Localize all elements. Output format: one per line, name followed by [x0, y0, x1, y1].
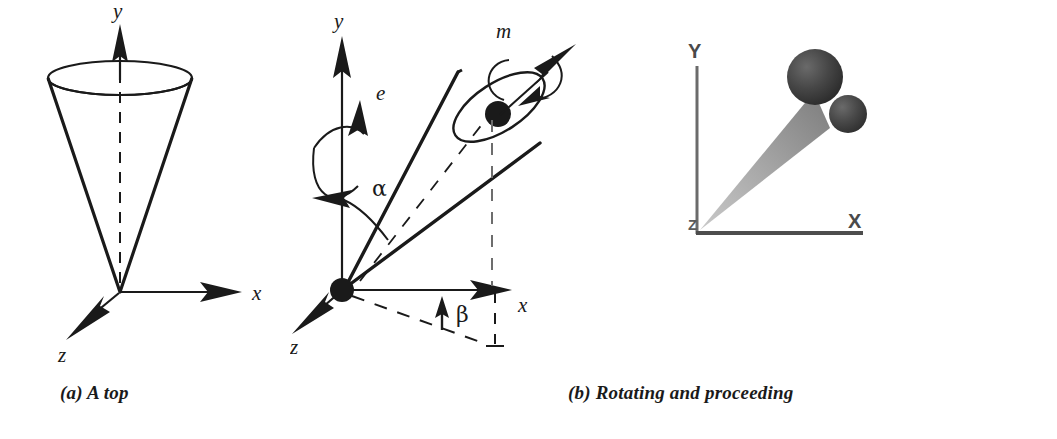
cone-rim-join [458, 70, 462, 72]
precession-arc [313, 148, 358, 197]
panel-c-solar-system: Y X Z (c) A Top in generalized solar sys… [650, 0, 1057, 439]
Y-axis-label: Y [688, 40, 702, 62]
mass-point [485, 101, 511, 127]
figure-container: y x z (a) A top y x z [0, 0, 1057, 439]
panel-b-rotating-proceeding: y x z [290, 0, 650, 439]
spin-axis-arrowhead [534, 44, 576, 84]
beta-angle-label: β [456, 302, 469, 327]
panel-a-diagram: y x z [0, 0, 300, 380]
z-axis-label: z [290, 335, 298, 359]
panel-a-top: y x z (a) A top [0, 0, 300, 439]
z-axis-label: z [57, 343, 66, 367]
cone-side-upper [345, 72, 458, 288]
gray-cone [700, 92, 830, 230]
origin-dot [330, 278, 354, 302]
x-axis-label: x [251, 281, 262, 305]
z-axis-arrowhead [66, 296, 110, 340]
alpha-angle-arrowhead [312, 190, 352, 208]
X-axis-label: X [848, 210, 862, 232]
alpha-angle-label: α [372, 176, 387, 201]
small-sphere [829, 95, 867, 133]
cone-side-lower [345, 143, 540, 288]
large-sphere [787, 49, 843, 105]
panel-c-diagram: Y X Z [650, 0, 1057, 380]
Z-axis-label: Z [688, 216, 697, 233]
x-axis-label: x [517, 293, 528, 317]
spin-mass-label: m [496, 19, 511, 43]
y-axis-label: y [332, 9, 344, 33]
z-axis-arrowhead [292, 292, 334, 334]
panel-a-caption: (a) A top [60, 382, 129, 404]
precession-label: e [376, 81, 385, 105]
panel-b-diagram: y x z [290, 0, 650, 380]
y-axis-label: y [111, 0, 123, 23]
